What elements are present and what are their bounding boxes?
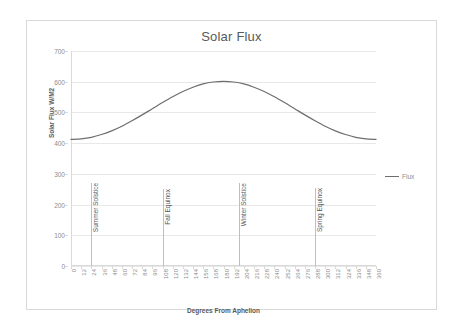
x-tick-mark <box>152 266 153 269</box>
x-tick-label: 120 <box>173 269 179 279</box>
x-tick-label: 12 <box>81 269 87 276</box>
x-tick-label: 360 <box>376 269 382 279</box>
x-tick-mark <box>183 266 184 269</box>
x-tick-mark <box>295 266 296 269</box>
x-tick-label: 300 <box>325 269 331 279</box>
y-tick-label: 700 <box>54 48 65 55</box>
x-tick-mark <box>142 266 143 269</box>
x-tick-label: 144 <box>193 269 199 279</box>
x-tick-mark <box>325 266 326 269</box>
x-axis-tick-labels: 0122436486072849610812013214415616818019… <box>71 269 376 303</box>
y-tick-label: 500 <box>54 109 65 116</box>
x-tick-label: 204 <box>244 269 250 279</box>
x-tick-label: 0 <box>71 269 77 272</box>
y-tick-label: 200 <box>54 201 65 208</box>
x-tick-label: 60 <box>122 269 128 276</box>
y-tick-mark <box>65 205 68 206</box>
x-tick-label: 132 <box>183 269 189 279</box>
x-tick-label: 96 <box>152 269 158 276</box>
x-tick-label: 48 <box>112 269 118 276</box>
x-tick-mark <box>366 266 367 269</box>
x-tick-mark <box>122 266 123 269</box>
x-tick-label: 252 <box>285 269 291 279</box>
y-tick-label: 600 <box>54 78 65 85</box>
x-tick-mark <box>102 266 103 269</box>
chart-container: Solar Flux Solar Flux W/M2 0100200300400… <box>26 20 437 310</box>
x-tick-mark <box>112 266 113 269</box>
x-tick-mark <box>356 266 357 269</box>
y-tick-mark <box>65 112 68 113</box>
y-tick-mark <box>65 143 68 144</box>
x-tick-label: 228 <box>264 269 270 279</box>
x-tick-label: 168 <box>213 269 219 279</box>
x-tick-label: 288 <box>315 269 321 279</box>
y-tick-mark <box>65 82 68 83</box>
x-tick-mark <box>163 266 164 269</box>
legend-label-flux: Flux <box>402 173 414 180</box>
x-tick-mark <box>213 266 214 269</box>
y-tick-mark <box>65 51 68 52</box>
x-tick-label: 24 <box>91 269 97 276</box>
legend-swatch-flux <box>385 176 399 178</box>
x-tick-mark <box>173 266 174 269</box>
x-tick-mark <box>132 266 133 269</box>
x-tick-mark <box>224 266 225 269</box>
x-tick-label: 240 <box>274 269 280 279</box>
x-tick-mark <box>254 266 255 269</box>
x-tick-label: 72 <box>132 269 138 276</box>
x-tick-mark <box>335 266 336 269</box>
x-tick-label: 264 <box>295 269 301 279</box>
x-tick-mark <box>285 266 286 269</box>
y-tick-label: 100 <box>54 232 65 239</box>
x-tick-mark <box>71 266 72 269</box>
x-tick-mark <box>81 266 82 269</box>
x-tick-label: 192 <box>234 269 240 279</box>
y-tick-mark <box>65 235 68 236</box>
x-tick-label: 276 <box>305 269 311 279</box>
x-tick-label: 312 <box>335 269 341 279</box>
x-tick-label: 156 <box>203 269 209 279</box>
x-axis-title: Degrees From Aphelion <box>71 307 376 314</box>
x-tick-label: 216 <box>254 269 260 279</box>
x-tick-mark <box>315 266 316 269</box>
x-tick-label: 348 <box>366 269 372 279</box>
x-tick-mark <box>305 266 306 269</box>
y-tick-label: 400 <box>54 140 65 147</box>
series-layer <box>71 51 376 266</box>
y-tick-mark <box>65 174 68 175</box>
y-tick-label: 300 <box>54 170 65 177</box>
x-tick-label: 324 <box>346 269 352 279</box>
chart-title: Solar Flux <box>27 29 436 44</box>
x-tick-label: 84 <box>142 269 148 276</box>
x-tick-mark <box>244 266 245 269</box>
x-tick-label: 108 <box>163 269 169 279</box>
x-tick-mark <box>264 266 265 269</box>
y-axis-tick-labels: 0100200300400500600700 <box>27 51 69 266</box>
x-tick-label: 180 <box>224 269 230 279</box>
x-tick-mark <box>234 266 235 269</box>
x-tick-mark <box>346 266 347 269</box>
x-tick-mark <box>376 266 377 269</box>
y-tick-mark <box>65 266 68 267</box>
flux-line-series <box>71 51 376 266</box>
x-tick-label: 336 <box>356 269 362 279</box>
series-line-flux <box>71 81 376 139</box>
x-tick-mark <box>193 266 194 269</box>
x-tick-mark <box>203 266 204 269</box>
x-tick-mark <box>91 266 92 269</box>
plot-area: Summer SolsticeFall EquinoxWinter Solsti… <box>71 51 376 266</box>
x-tick-label: 36 <box>102 269 108 276</box>
x-tick-mark <box>274 266 275 269</box>
chart-legend: Flux <box>385 173 414 180</box>
